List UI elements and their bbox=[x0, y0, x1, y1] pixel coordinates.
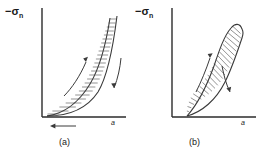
panel-a: −σn bbox=[0, 0, 129, 157]
x-axis-label-a: a bbox=[111, 119, 115, 126]
panel-b-plot bbox=[130, 0, 259, 157]
axes-b bbox=[172, 8, 256, 117]
panel-caption-a: (a) bbox=[0, 138, 129, 147]
figure-root: −σn bbox=[0, 0, 259, 157]
crack-closure-arrow-a bbox=[50, 124, 76, 129]
panel-b: −σn bbox=[130, 0, 259, 157]
loading-arrow-b bbox=[196, 53, 213, 92]
x-axis-label-b: a bbox=[241, 119, 245, 126]
unloading-branch-b bbox=[187, 29, 243, 116]
panel-a-plot bbox=[0, 0, 129, 157]
loading-arrow-a bbox=[64, 57, 88, 96]
axes-a bbox=[42, 8, 126, 117]
panel-caption-b: (b) bbox=[130, 138, 259, 147]
unloading-arrow-a bbox=[111, 58, 121, 88]
hatch-fill-a bbox=[48, 19, 117, 114]
